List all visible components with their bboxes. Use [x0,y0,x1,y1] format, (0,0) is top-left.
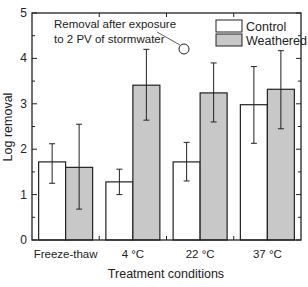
y-tick-label: 4 [20,51,27,65]
x-axis-label: Treatment conditions [108,267,224,281]
annotation-line-2: to 2 PV of stormwater [54,33,165,45]
y-tick-label: 2 [20,142,27,156]
legend-label-control: Control [246,20,286,34]
y-tick-label: 3 [20,97,27,111]
y-tick-label: 1 [20,188,27,202]
legend: Control Weathered [216,20,307,48]
x-tick-label: 37 °C [253,248,282,260]
annotation-line-1: Removal after exposure [54,18,176,30]
bar-chart: Freeze-thaw4 °C22 °C37 °C012345 Removal … [0,0,308,287]
y-tick-label: 0 [20,233,27,247]
legend-swatch-control [216,20,242,32]
annotation-circle-marker [179,44,189,54]
bars-group [39,49,295,240]
y-axis-label: Log removal [1,93,15,162]
legend-label-weathered: Weathered [246,34,307,48]
x-tick-label: 4 °C [122,248,145,260]
legend-swatch-weathered [216,34,242,46]
x-tick-label: 22 °C [186,248,215,260]
x-tick-label: Freeze-thaw [34,248,99,260]
y-tick-label: 5 [20,6,27,20]
